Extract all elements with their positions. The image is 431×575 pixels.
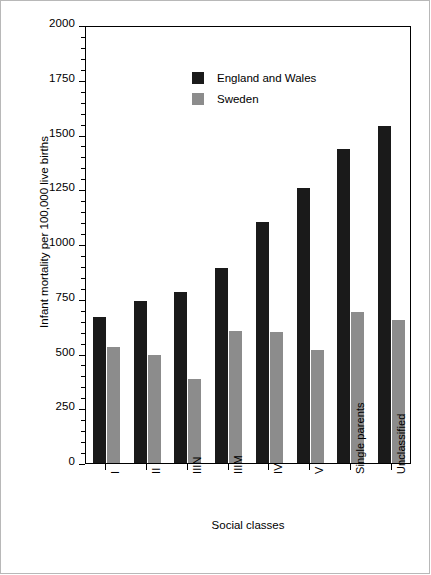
legend-label: Sweden [217,93,259,105]
y-tick-label: 750 [56,292,76,304]
legend-swatch [192,93,204,105]
y-tick-label: 250 [56,401,76,413]
bar [229,331,242,463]
x-tick-label: I [109,471,121,474]
bar [337,149,350,463]
x-axis-title: Social classes [85,519,411,531]
x-tick-mark [309,464,310,470]
x-tick-mark [187,464,188,470]
x-tick-label: Single parents [354,402,366,474]
chart-legend: England and WalesSweden [192,67,362,109]
bar [148,355,161,463]
y-tick-label: 1000 [49,237,75,249]
bar-group [93,27,120,463]
x-tick-label: IIIN [191,456,203,474]
legend-swatch [192,72,204,84]
bar-group [134,27,161,463]
x-tick-mark [268,464,269,470]
bar [188,379,201,463]
plot-area: England and WalesSweden [85,26,411,464]
bar [270,332,283,463]
y-axis-title: Infant mortality per 100,000 live births [38,102,50,362]
legend-item: Sweden [192,88,362,109]
bar [297,188,310,463]
x-tick-label: V [313,467,325,474]
bar [378,126,391,463]
chart-figure: 025050075010001250150017502000 Infant mo… [0,0,431,575]
bar [311,350,324,463]
x-tick-label: II [150,468,162,474]
x-tick-label: IV [272,463,284,474]
x-tick-mark [350,464,351,470]
y-tick-label: 1750 [49,73,75,85]
bar [256,222,269,463]
legend-label: England and Wales [217,72,316,84]
y-tick-label: 0 [69,456,76,468]
bar [134,301,147,463]
bar [107,347,120,463]
x-tick-mark [105,464,106,470]
x-tick-mark [146,464,147,470]
x-tick-label: Unclassified [395,413,407,474]
y-tick-label: 1250 [49,182,75,194]
y-tick-label: 500 [56,347,76,359]
bar [215,268,228,463]
x-tick-mark [228,464,229,470]
bar [93,317,106,463]
y-axis: 025050075010001250150017502000 Infant mo… [0,26,85,464]
y-tick-label: 2000 [49,18,75,30]
x-tick-mark [391,464,392,470]
y-tick-label: 1500 [49,128,75,140]
x-tick-label: IIIM [232,455,244,474]
bar [174,292,187,463]
legend-item: England and Wales [192,67,362,88]
bar-group [378,27,405,463]
